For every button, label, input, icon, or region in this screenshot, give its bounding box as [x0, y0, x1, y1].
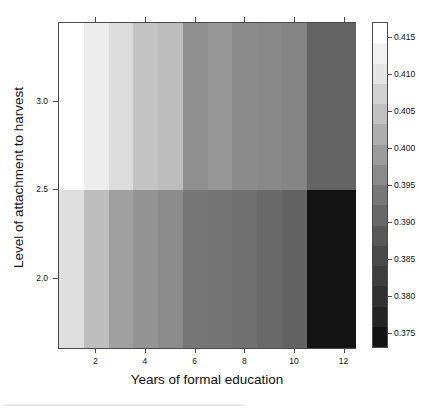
x-tick-label: 12 — [339, 356, 348, 366]
colorbar-tick-mark — [388, 185, 392, 186]
x-tick-mark-top — [344, 17, 345, 22]
colorbar-tick-label: 0.400 — [394, 143, 415, 153]
scan-artifact — [4, 404, 244, 406]
heatmap-cell — [183, 23, 208, 190]
colorbar-band — [373, 104, 387, 124]
y-tick-label: 2.0 — [36, 273, 48, 283]
heatmap-row-upper — [59, 23, 356, 190]
y-tick-label: 3.0 — [36, 96, 48, 106]
y-axis-title: Level of attachment to harvest — [11, 28, 26, 328]
x-tick-mark — [195, 348, 196, 353]
heatmap-cell — [282, 190, 307, 348]
heatmap-cell — [208, 23, 233, 190]
y-tick-label: 2.5 — [36, 184, 48, 194]
heatmap-row-lower — [59, 190, 356, 348]
colorbar-band — [373, 246, 387, 266]
x-tick-mark-top — [195, 17, 196, 22]
colorbar-tick-label: 0.390 — [394, 217, 415, 227]
x-tick-mark — [344, 348, 345, 353]
colorbar-band — [373, 124, 387, 144]
y-tick-mark — [53, 101, 58, 102]
x-tick-mark — [145, 348, 146, 353]
heatmap-cell — [257, 23, 282, 190]
x-tick-label: 4 — [143, 356, 148, 366]
colorbar-band — [373, 84, 387, 104]
x-axis-line — [58, 348, 356, 349]
heatmap-cell — [307, 23, 332, 190]
colorbar-tick-label: 0.380 — [394, 291, 415, 301]
colorbar-tick-mark — [388, 111, 392, 112]
colorbar-band — [373, 64, 387, 84]
colorbar-gradient — [373, 23, 387, 347]
colorbar[interactable] — [372, 22, 388, 348]
x-tick-label: 8 — [242, 356, 247, 366]
colorbar-band — [373, 266, 387, 286]
x-tick-label: 10 — [289, 356, 298, 366]
x-tick-label: 6 — [192, 356, 197, 366]
heatmap-cell — [331, 190, 356, 348]
x-tick-mark-top — [244, 17, 245, 22]
heatmap-cell — [183, 190, 208, 348]
heatmap-cell — [84, 23, 109, 190]
heatmap-figure: 246810122.02.53.0 Years of formal educat… — [0, 0, 421, 410]
y-tick-mark — [53, 278, 58, 279]
colorbar-tick-label: 0.415 — [394, 32, 415, 42]
heatmap-cell — [133, 190, 158, 348]
colorbar-band — [373, 43, 387, 63]
heatmap-grid — [59, 23, 356, 348]
heatmap-cell — [208, 190, 233, 348]
colorbar-band — [373, 23, 387, 43]
colorbar-tick-mark — [388, 259, 392, 260]
colorbar-tick-label: 0.375 — [394, 328, 415, 338]
colorbar-tick-label: 0.410 — [394, 69, 415, 79]
heatmap-cell — [232, 190, 257, 348]
x-tick-label: 2 — [93, 356, 98, 366]
heatmap-cell — [158, 190, 183, 348]
x-tick-mark-top — [294, 17, 295, 22]
colorbar-band — [373, 165, 387, 185]
colorbar-band — [373, 145, 387, 165]
colorbar-tick-label: 0.395 — [394, 180, 415, 190]
x-tick-mark — [95, 348, 96, 353]
x-axis-title: Years of formal education — [58, 372, 356, 387]
colorbar-tick-mark — [388, 222, 392, 223]
heatmap-cell — [232, 23, 257, 190]
heatmap-cell — [158, 23, 183, 190]
heatmap-cell — [133, 23, 158, 190]
heatmap-cell — [257, 190, 282, 348]
colorbar-band — [373, 307, 387, 327]
x-tick-mark — [294, 348, 295, 353]
panel-top-border — [58, 22, 356, 23]
heatmap-cell — [331, 23, 356, 190]
plot-area[interactable] — [58, 22, 356, 348]
heatmap-cell — [109, 190, 134, 348]
x-tick-mark-top — [145, 17, 146, 22]
colorbar-tick-mark — [388, 74, 392, 75]
y-tick-mark — [53, 189, 58, 190]
colorbar-tick-label: 0.385 — [394, 254, 415, 264]
heatmap-cell — [84, 190, 109, 348]
colorbar-tick-label: 0.405 — [394, 106, 415, 116]
colorbar-band — [373, 327, 387, 347]
heatmap-cell — [109, 23, 134, 190]
heatmap-cell — [307, 190, 332, 348]
colorbar-band — [373, 185, 387, 205]
colorbar-band — [373, 205, 387, 225]
colorbar-tick-mark — [388, 333, 392, 334]
colorbar-band — [373, 226, 387, 246]
colorbar-tick-mark — [388, 37, 392, 38]
heatmap-cell — [59, 23, 84, 190]
colorbar-tick-mark — [388, 148, 392, 149]
heatmap-cell — [282, 23, 307, 190]
colorbar-band — [373, 286, 387, 306]
y-axis-line — [58, 22, 59, 349]
x-tick-mark — [244, 348, 245, 353]
x-tick-mark-top — [95, 17, 96, 22]
heatmap-cell — [59, 190, 84, 348]
colorbar-tick-mark — [388, 296, 392, 297]
